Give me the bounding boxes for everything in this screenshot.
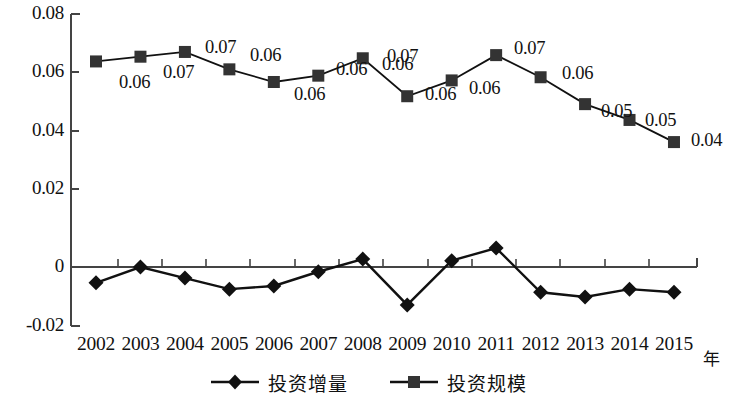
square-marker-icon [401,90,413,102]
data-label-10: 0.07 [514,38,545,59]
square-marker-icon [579,98,591,110]
square-marker-icon [179,46,191,58]
data-label-5: 0.06 [336,59,367,80]
diamond-marker-icon [89,275,104,290]
data-label-12: 0.05 [601,101,632,122]
square-marker-icon [223,63,235,75]
legend-label-diamond: 投资增量 [268,369,348,396]
diamond-marker-icon [622,282,637,297]
y-axis [71,14,80,326]
legend-label-square: 投资规模 [447,369,527,396]
square-marker-icon [312,70,324,82]
diamond-marker-icon [666,285,681,300]
data-label-9: 0.06 [469,78,500,99]
data-label-1: 0.07 [163,62,194,83]
square-marker-icon [388,373,440,391]
series-investment-increment [89,241,682,313]
data-label-8: 0.06 [425,84,456,105]
data-label-2: 0.07 [205,37,236,58]
y-axis-tick-4: 0 [0,255,64,277]
chart-legend: 投资增量 投资规模 [0,366,735,398]
data-label-4: 0.06 [294,84,325,105]
square-marker-icon [535,71,547,83]
diamond-marker-icon [177,271,192,286]
diamond-marker-icon [266,278,281,293]
data-label-13: 0.05 [645,110,676,131]
diamond-marker-icon [578,290,593,305]
diamond-marker-icon [209,373,261,391]
data-label-11: 0.06 [562,63,593,84]
square-marker-icon [268,76,280,88]
chart-container: 0.080.060.040.020-0.02 20022003200420052… [0,0,735,398]
data-label-3: 0.06 [250,45,281,66]
x-axis [71,258,697,267]
x-axis-tick-2015: 2015 [648,333,700,355]
square-marker-icon [490,49,502,61]
legend-item-diamond[interactable]: 投资增量 [209,369,348,396]
data-label-14: 0.04 [691,130,722,151]
series-layer [89,46,682,313]
diamond-marker-icon [133,260,148,275]
y-axis-tick-5: -0.02 [0,314,64,336]
diamond-marker-icon [222,282,237,297]
y-axis-tick-3: 0.02 [0,177,64,199]
legend-item-square[interactable]: 投资规模 [388,369,527,396]
data-label-0: 0.06 [119,72,150,93]
square-marker-icon [90,55,102,67]
square-marker-icon [668,136,680,148]
data-label-7: 0.07 [387,46,418,67]
y-axis-tick-2: 0.04 [0,119,64,141]
square-marker-icon [134,51,146,63]
y-axis-tick-0: 0.08 [0,2,64,24]
y-axis-tick-1: 0.06 [0,60,64,82]
